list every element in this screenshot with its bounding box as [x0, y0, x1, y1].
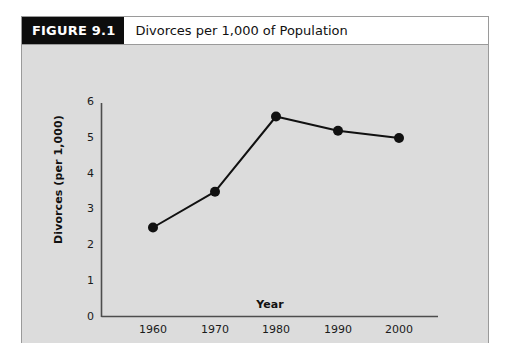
y-tick-label-5: 5	[78, 131, 94, 144]
figure-header: FIGURE 9.1 Divorces per 1,000 of Populat…	[22, 17, 488, 45]
figure-title: Divorces per 1,000 of Population	[124, 17, 347, 44]
series-line-divorces	[153, 117, 399, 228]
data-point-1960	[148, 223, 158, 233]
y-axis-title: Divorces (per 1,000)	[52, 100, 65, 260]
data-point-1980	[271, 112, 281, 122]
y-tick-label-2: 2	[78, 238, 94, 251]
y-tick-label-3: 3	[78, 202, 94, 215]
y-tick-label-0: 0	[78, 310, 94, 323]
figure-number-badge: FIGURE 9.1	[22, 17, 124, 44]
data-point-1970	[210, 187, 220, 197]
x-tick-label-1990: 1990	[316, 323, 360, 336]
y-tick-label-4: 4	[78, 167, 94, 180]
y-tick-label-1: 1	[78, 274, 94, 287]
x-tick-label-1960: 1960	[131, 323, 175, 336]
data-point-2000	[394, 133, 404, 143]
x-tick-label-1980: 1980	[254, 323, 298, 336]
x-tick-label-2000: 2000	[377, 323, 421, 336]
chart-panel: Divorces (per 1,000) 0 1 2 3 4 5 6 1960 …	[22, 45, 488, 343]
y-tick-label-6: 6	[78, 95, 94, 108]
data-point-1990	[333, 126, 343, 136]
x-axis-title: Year	[101, 298, 439, 311]
figure-container: FIGURE 9.1 Divorces per 1,000 of Populat…	[21, 16, 489, 343]
x-tick-label-1970: 1970	[193, 323, 237, 336]
